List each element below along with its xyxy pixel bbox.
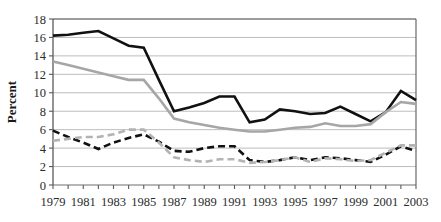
x-tick-label-1995: 1995	[283, 195, 308, 209]
y-tick-label-6: 6	[40, 123, 46, 137]
y-axis-tick-labels: 024681012141618	[34, 13, 47, 193]
y-tick-label-4: 4	[40, 142, 47, 156]
black-solid-series	[53, 31, 416, 122]
black-dashed-series	[53, 131, 416, 162]
chart-canvas: 024681012141618 197919811983198519871989…	[0, 0, 441, 222]
y-tick-label-0: 0	[40, 179, 46, 193]
x-axis-ticks	[53, 185, 416, 189]
y-tick-label-14: 14	[34, 49, 47, 63]
x-tick-label-1989: 1989	[192, 195, 217, 209]
y-tick-label-12: 12	[34, 68, 47, 82]
x-tick-label-1979: 1979	[41, 195, 66, 209]
x-axis-tick-labels: 1979198119831985198719891991199319951997…	[41, 195, 429, 209]
x-tick-label-1999: 1999	[343, 195, 368, 209]
x-tick-label-1997: 1997	[313, 195, 338, 209]
x-tick-label-1993: 1993	[252, 195, 277, 209]
x-tick-label-1983: 1983	[101, 195, 126, 209]
y-tick-label-2: 2	[40, 160, 46, 174]
y-axis-title-text: Percent	[4, 80, 19, 123]
data-series-lines	[53, 31, 416, 163]
x-tick-label-1985: 1985	[131, 195, 156, 209]
y-tick-label-10: 10	[34, 86, 47, 100]
y-tick-label-8: 8	[40, 105, 46, 119]
x-tick-label-1987: 1987	[162, 195, 187, 209]
x-tick-label-1981: 1981	[71, 195, 96, 209]
x-tick-label-2003: 2003	[404, 195, 429, 209]
x-tick-label-1991: 1991	[222, 195, 247, 209]
x-tick-label-2001: 2001	[373, 195, 398, 209]
y-tick-label-18: 18	[34, 13, 47, 27]
y-axis-title: Percent	[4, 80, 19, 123]
y-tick-label-16: 16	[34, 31, 47, 45]
percent-line-chart: 024681012141618 197919811983198519871989…	[0, 0, 441, 222]
